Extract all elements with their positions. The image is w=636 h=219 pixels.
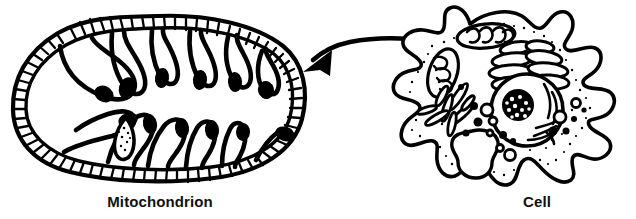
cell-label: Cell [477, 194, 597, 210]
biology-diagram [0, 0, 636, 219]
mitochondrion-label: Mitochondrion [60, 194, 260, 210]
cell-organelle-nucleolus [502, 89, 534, 121]
cell-organelle-vacuole [452, 130, 499, 178]
